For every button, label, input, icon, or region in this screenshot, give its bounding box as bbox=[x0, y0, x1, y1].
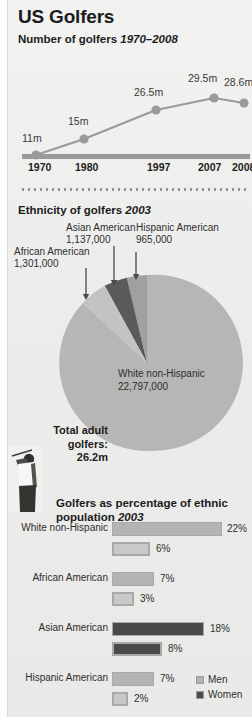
golfer-swing-photo bbox=[2, 446, 48, 512]
line-chart-svg bbox=[16, 50, 252, 170]
pie-callout-hispanic-name: Hispanic American bbox=[136, 222, 219, 234]
pie-callout-african-name: African American bbox=[14, 246, 90, 258]
bar-value-men: 18% bbox=[210, 623, 230, 634]
line-chart-point-1980 bbox=[79, 134, 88, 143]
legend-label-women: Women bbox=[208, 689, 242, 700]
bar-women bbox=[112, 692, 128, 706]
pie-callout-african-american: African American 1,301,000 bbox=[14, 246, 90, 270]
bar-men bbox=[112, 522, 222, 536]
bar-women bbox=[112, 542, 150, 556]
line-chart-point-2008 bbox=[239, 98, 248, 107]
bar-value-men: 7% bbox=[160, 673, 174, 684]
pie-slice-african-american bbox=[70, 363, 147, 413]
legend-swatch-women-icon bbox=[196, 691, 204, 699]
line-chart-label-2007: 29.5m bbox=[188, 72, 217, 84]
bar-row-women: 6% bbox=[112, 542, 252, 556]
pie-label-white-value: 22,797,000 bbox=[118, 381, 205, 394]
bar-row-men: 22% bbox=[112, 522, 252, 536]
legend-label-men: Men bbox=[208, 674, 227, 685]
line-chart-label-1980: 15m bbox=[68, 115, 88, 127]
pie-callout-african-value: 1,301,000 bbox=[14, 258, 90, 270]
bar-men bbox=[112, 672, 154, 686]
section-divider bbox=[20, 188, 248, 191]
year-label-1980: 1980 bbox=[75, 161, 98, 173]
pie-callout-asian-american: Asian American 1,137,000 bbox=[66, 222, 135, 246]
left-edge-strip bbox=[0, 0, 8, 717]
pie-slice-asian-american-2 bbox=[105, 278, 147, 363]
bar-row-women: 8% bbox=[112, 642, 252, 656]
bar-chart-legend: Men Women bbox=[196, 672, 242, 702]
bar-value-women: 6% bbox=[156, 543, 170, 554]
bar-group-label: African American bbox=[8, 572, 108, 583]
infographic-us-golfers: US Golfers Number of golfers 1970–2008 1… bbox=[0, 0, 252, 717]
infographic-content: US Golfers Number of golfers 1970–2008 1… bbox=[8, 0, 252, 717]
bar-men bbox=[112, 622, 204, 636]
bar-value-women: 3% bbox=[140, 593, 154, 604]
line-chart-title-year: 1970–2008 bbox=[120, 33, 178, 45]
pie-chart-title-text: Ethnicity of golfers bbox=[18, 204, 125, 216]
line-chart-point-2007 bbox=[209, 93, 218, 102]
bar-value-women: 8% bbox=[168, 643, 182, 654]
bar-value-men: 7% bbox=[160, 573, 174, 584]
pie-callout-asian-name: Asian American bbox=[66, 222, 135, 234]
golfer-trousers bbox=[19, 485, 36, 512]
pie-chart-title: Ethnicity of golfers 2003 bbox=[18, 204, 151, 216]
line-chart-point-1997 bbox=[151, 105, 160, 114]
pie-slice-african-american-2 bbox=[83, 286, 147, 363]
arrowhead-asian bbox=[111, 280, 117, 286]
pie-leader-lines bbox=[86, 246, 136, 296]
year-label-2008: 2008 bbox=[232, 161, 252, 173]
arrowhead-hispanic bbox=[133, 274, 139, 280]
bar-men bbox=[112, 572, 154, 586]
bar-group-label: White non-Hispanic bbox=[8, 522, 108, 533]
pie-leader-arrowheads bbox=[83, 274, 139, 300]
pie-slice-asian-american bbox=[65, 363, 147, 395]
pie-label-white-name: White non-Hispanic bbox=[118, 368, 205, 381]
pie-callout-hispanic-american: Hispanic American 965,000 bbox=[136, 222, 219, 246]
pie-chart-title-year: 2003 bbox=[125, 204, 151, 216]
legend-item-men: Men bbox=[196, 672, 242, 687]
legend-swatch-men-icon bbox=[196, 676, 204, 684]
line-chart-year-labels: 1970 1980 1997 2007 2008 bbox=[16, 161, 252, 177]
line-chart-label-2008: 28.6m bbox=[224, 76, 252, 88]
pie-slice-hispanic-american bbox=[127, 275, 147, 363]
bar-women bbox=[112, 642, 162, 656]
line-chart: 11m 15m 26.5m 29.5m 28.6m bbox=[16, 50, 252, 170]
bar-value-men: 22% bbox=[227, 523, 247, 534]
year-label-1970: 1970 bbox=[28, 161, 51, 173]
bar-row-women: 3% bbox=[112, 592, 252, 606]
total-golfers-label-line1: Total adult bbox=[16, 424, 108, 438]
bar-chart-title: Golfers as percentage of ethnic populati… bbox=[56, 496, 246, 524]
line-chart-title-text: Number of golfers bbox=[18, 33, 120, 45]
line-chart-title: Number of golfers 1970–2008 bbox=[18, 33, 178, 45]
pie-callout-asian-value: 1,137,000 bbox=[66, 234, 135, 246]
line-chart-label-1970: 11m bbox=[22, 132, 42, 144]
page-title: US Golfers bbox=[18, 6, 114, 28]
line-chart-axis-bar bbox=[22, 154, 250, 159]
year-label-2007: 2007 bbox=[198, 161, 221, 173]
legend-item-women: Women bbox=[196, 687, 242, 702]
bar-value-women: 2% bbox=[134, 693, 148, 704]
pie-label-white-non-hispanic: White non-Hispanic 22,797,000 bbox=[118, 368, 205, 393]
bar-group-label: Asian American bbox=[8, 622, 108, 633]
bar-row-men: 7% bbox=[112, 572, 252, 586]
pie-callout-hispanic-value: 965,000 bbox=[136, 234, 219, 246]
arrowhead-african bbox=[83, 294, 89, 300]
bar-group-label: Hispanic American bbox=[8, 672, 108, 683]
line-chart-label-1997: 26.5m bbox=[134, 86, 163, 98]
year-label-1997: 1997 bbox=[147, 161, 170, 173]
bar-women bbox=[112, 592, 134, 606]
bar-row-men: 18% bbox=[112, 622, 252, 636]
